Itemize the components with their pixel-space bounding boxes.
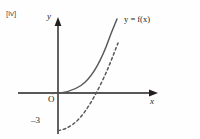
dashed-curve-translated — [58, 43, 118, 131]
part-label: [iv] — [6, 10, 16, 18]
figure-panel: [iv] y x O –3 y = f(x) — [0, 0, 200, 139]
graph-canvas — [0, 0, 200, 139]
y-axis-arrow — [55, 17, 62, 26]
solid-curve-f-of-x — [52, 19, 117, 94]
curve-equation-label: y = f(x) — [124, 15, 150, 24]
y-intercept-label: –3 — [31, 116, 40, 125]
origin-label: O — [48, 95, 55, 104]
y-axis-label: y — [47, 12, 51, 21]
y-axis — [55, 17, 62, 134]
x-axis-label: x — [150, 97, 154, 106]
x-axis — [18, 90, 158, 97]
